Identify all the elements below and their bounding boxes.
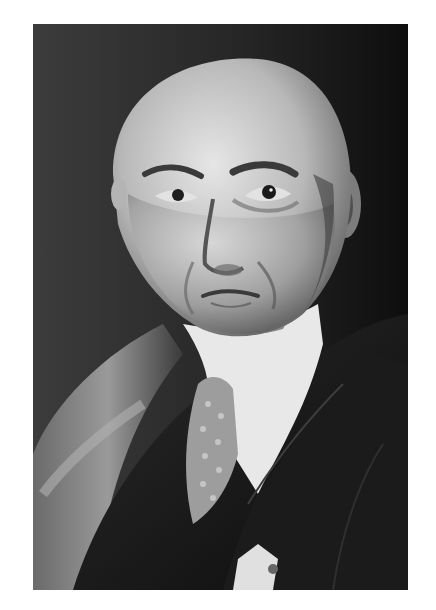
portrait-photo	[33, 24, 408, 590]
portrait-illustration	[33, 24, 408, 590]
photo-caption	[40, 602, 400, 610]
